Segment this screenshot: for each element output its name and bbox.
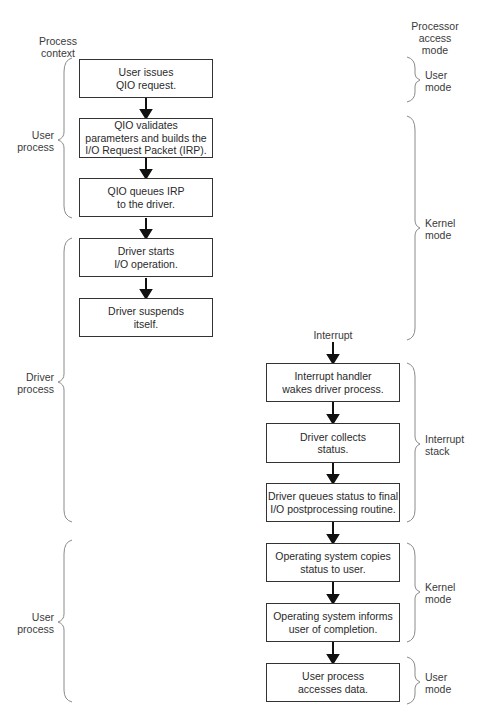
step-text: QIO validates parameters and builds the …: [85, 119, 206, 157]
brace-right-interrupt-stack: [407, 363, 420, 522]
step-text: Driver starts I/O operation.: [114, 245, 178, 270]
label-kernel-mode-2: Kernel mode: [425, 581, 480, 605]
label-interrupt-stack: Interrupt stack: [425, 433, 480, 457]
step-text: User issues QIO request.: [116, 66, 176, 91]
step-os-copies-status: Operating system copies status to user.: [266, 543, 400, 582]
connectors-overlay: [0, 0, 483, 728]
label-user-mode-2: User mode: [425, 671, 480, 695]
step-user-issues-qio: User issues QIO request.: [79, 59, 213, 98]
label-user-process: User process: [4, 129, 54, 153]
step-driver-queues-status: Driver queues status to final I/O postpr…: [266, 483, 400, 522]
step-os-informs-user: Operating system informs user of complet…: [266, 603, 400, 642]
brace-left-user-process: [58, 58, 72, 218]
step-text: User process accesses data.: [298, 670, 368, 695]
brace-left-driver-process: [58, 238, 72, 522]
brace-right-kernel-mode: [407, 116, 420, 340]
step-text: Operating system copies status to user.: [275, 550, 391, 575]
step-user-accesses-data: User process accesses data.: [266, 663, 400, 702]
step-driver-starts: Driver starts I/O operation.: [79, 238, 213, 277]
step-qio-queues-irp: QIO queues IRP to the driver.: [79, 178, 213, 217]
step-text: Operating system informs user of complet…: [273, 610, 393, 635]
label-kernel-mode: Kernel mode: [425, 217, 480, 241]
step-text: Driver queues status to final I/O postpr…: [268, 490, 398, 515]
step-qio-validates: QIO validates parameters and builds the …: [79, 118, 213, 158]
label-user-mode: User mode: [425, 69, 480, 93]
step-text: QIO queues IRP to the driver.: [107, 185, 184, 210]
step-text: Driver suspends itself.: [108, 305, 184, 330]
brace-right-user-mode: [407, 57, 420, 102]
label-driver-process: Driver process: [4, 371, 54, 395]
step-text: Driver collects status.: [300, 431, 366, 456]
brace-right-kernel-mode-2: [407, 543, 420, 642]
step-interrupt-handler: Interrupt handler wakes driver process.: [266, 363, 400, 402]
step-text: Interrupt handler wakes driver process.: [282, 370, 384, 395]
step-driver-suspends: Driver suspends itself.: [79, 298, 213, 337]
brace-left-user-process-2: [58, 540, 72, 702]
brace-right-user-mode-2: [407, 657, 420, 704]
step-driver-collects-status: Driver collects status.: [266, 423, 400, 463]
label-user-process-2: User process: [4, 611, 54, 635]
interrupt-label: Interrupt: [303, 329, 363, 341]
